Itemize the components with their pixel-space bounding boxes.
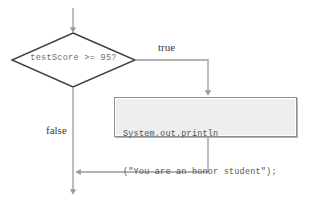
true-branch-label: true — [158, 41, 175, 53]
false-branch-label: false — [46, 124, 67, 136]
code-line-1: System.out.println — [123, 128, 277, 141]
process-box: System.out.println ("You are an honor st… — [114, 97, 297, 137]
flowchart-diagram: testScore >= 95? true false System.out.p… — [0, 0, 311, 204]
process-code: System.out.println ("You are an honor st… — [123, 103, 277, 203]
true-branch-edge — [135, 60, 208, 93]
decision-condition-text: testScore >= 95? — [14, 53, 133, 63]
code-line-2: ("You are an honor student"); — [123, 166, 277, 179]
